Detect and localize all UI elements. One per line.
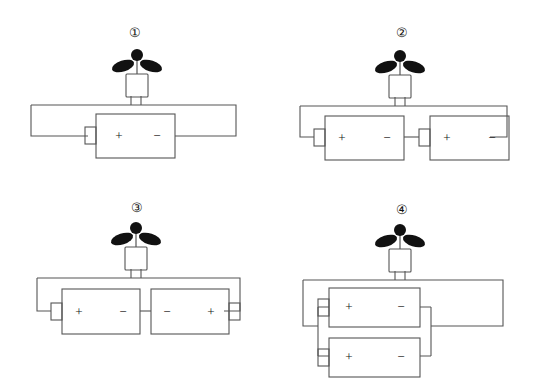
fan-blade-left	[373, 58, 398, 76]
battery-2-body	[329, 338, 420, 377]
battery-2-left-terminal: −	[163, 304, 170, 319]
fan-hub	[130, 222, 142, 234]
panel-label-1: ①	[129, 25, 141, 40]
battery-2-nub	[318, 349, 329, 366]
motor-housing	[389, 75, 411, 98]
wire-left	[300, 106, 314, 137]
battery-1-body	[329, 288, 420, 327]
fan-blade-left	[109, 230, 134, 248]
battery-1-right-terminal: −	[397, 299, 404, 314]
circuit-panel-2: + − + − ②	[268, 0, 535, 194]
wire-right	[31, 105, 236, 136]
battery-1-right-terminal: −	[119, 304, 126, 319]
battery-1-right-terminal: −	[153, 128, 160, 143]
battery-body	[96, 114, 175, 158]
battery-1-body	[325, 116, 404, 160]
motor-housing	[126, 74, 148, 97]
battery-1-nub	[51, 303, 62, 320]
motor-housing	[389, 249, 411, 272]
circuit-panel-4: + − + − ④	[268, 195, 535, 389]
motor-housing	[125, 247, 147, 270]
battery-1-left-terminal: +	[115, 128, 122, 143]
fan-hub	[131, 49, 143, 61]
panel-label-3: ③	[131, 200, 143, 215]
battery-1-left-terminal: +	[75, 304, 82, 319]
circuit-panel-3: + − − + ③	[0, 195, 267, 389]
wire-bus-right-taps	[420, 307, 431, 356]
wire-left	[37, 278, 51, 311]
battery-2-right-terminal: −	[397, 349, 404, 364]
battery-1-right-terminal: −	[383, 130, 390, 145]
battery-1-nub	[314, 129, 325, 146]
battery-2-nub	[419, 129, 430, 146]
wire-left	[31, 105, 88, 136]
fan-blade-right	[401, 58, 426, 76]
battery-2-left-terminal: +	[345, 349, 352, 364]
panel-label-4: ④	[396, 202, 408, 217]
fan-blade-right	[137, 230, 162, 248]
battery-2-right-terminal: −	[488, 130, 495, 145]
fan-blade-left	[110, 57, 135, 75]
circuit-panel-1: + − ①	[0, 0, 267, 194]
fan-blade-right	[138, 57, 163, 75]
battery-1-left-terminal: +	[345, 299, 352, 314]
fan-blade-left	[373, 232, 398, 250]
battery-2-left-terminal: +	[443, 130, 450, 145]
battery-1-left-terminal: +	[338, 130, 345, 145]
battery-2-body	[430, 116, 509, 160]
battery-2-right-terminal: +	[207, 304, 214, 319]
fan-hub	[394, 224, 406, 236]
panel-label-2: ②	[396, 25, 408, 40]
fan-hub	[394, 50, 406, 62]
fan-blade-right	[401, 232, 426, 250]
battery-1-body	[62, 289, 140, 334]
diagram-sheet: + − ①	[0, 0, 535, 389]
wire-outer-left	[303, 280, 318, 326]
